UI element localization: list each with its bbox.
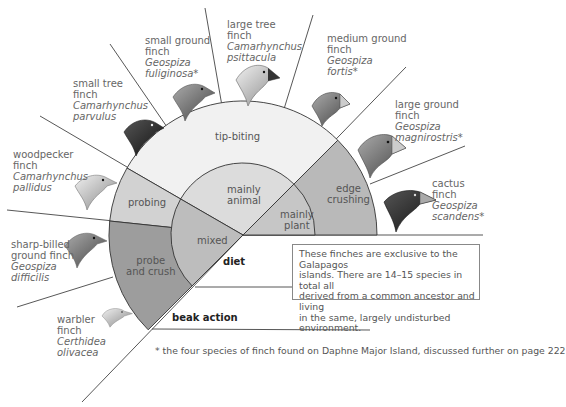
info-box-line1: These finches are exclusive to the Galap… (299, 249, 479, 270)
warbler-finch-head-icon (102, 309, 132, 328)
label-mainly-animal-line1: mainly (227, 184, 261, 195)
common-name-line2: finch (432, 189, 484, 200)
label-probing: probing (128, 197, 166, 208)
species-label-large-ground-finch: large ground finch Geospiza magnirostris… (395, 99, 463, 143)
cactus-finch-head-icon (384, 190, 436, 232)
species-label-sharp-billed-ground-finch: sharp-billed ground finch Geospiza diffi… (11, 239, 74, 283)
scientific-name-line2: pallidus (13, 182, 88, 193)
common-name-line2: finch (13, 160, 88, 171)
common-name-line2: finch (395, 110, 463, 121)
label-mainly-plant-line2: plant (280, 220, 314, 231)
scientific-name-line2: scandens* (432, 211, 484, 222)
scientific-name-line2: magnirostris* (395, 132, 463, 143)
label-mixed: mixed (197, 235, 228, 246)
footnote: * the four species of finch found on Dap… (155, 345, 566, 356)
beak-action-axis-label: beak action (172, 312, 238, 323)
scientific-name-line1: Camarhynchus (227, 41, 302, 52)
common-name-line2: finch (57, 325, 106, 336)
label-probe-and-crush: probe and crush (126, 255, 176, 277)
label-mainly-animal-line2: animal (227, 195, 261, 206)
common-name-line2: ground finch (11, 250, 74, 261)
common-name-line2: finch (327, 44, 407, 55)
common-name-line2: finch (227, 30, 302, 41)
scientific-name-line2: fuliginosa* (145, 68, 210, 79)
label-edge-crushing: edge crushing (327, 183, 370, 205)
common-name-line2: finch (73, 89, 148, 100)
medium-ground-finch-head-icon (312, 93, 350, 127)
common-name-line1: large ground (395, 99, 463, 110)
species-label-medium-ground-finch: medium ground finch Geospiza fortis* (327, 33, 407, 77)
common-name-line1: sharp-billed (11, 239, 74, 250)
large-tree-finch-head-icon (236, 65, 280, 106)
info-box-line2: islands. There are 14–15 species in tota… (299, 270, 479, 291)
scientific-name-line1: Certhidea (57, 336, 106, 347)
label-mainly-plant-line1: mainly (280, 209, 314, 220)
scientific-name-line1: Geospiza (432, 200, 484, 211)
common-name-line1: large tree (227, 19, 302, 30)
common-name-line1: cactus (432, 178, 484, 189)
label-mainly-plant: mainly plant (280, 209, 314, 231)
species-label-small-tree-finch: small tree finch Camarhynchus parvulus (73, 78, 148, 122)
label-probe-line2: and crush (126, 266, 176, 277)
info-box-line4: in the same, largely undisturbed environ… (299, 313, 479, 334)
scientific-name-line2: difficilis (11, 272, 74, 283)
scientific-name-line2: psittacula (227, 52, 302, 63)
label-edge-crushing-line1: edge (327, 183, 370, 194)
info-box-line3: derived from a common ancestor and livin… (299, 291, 479, 312)
species-label-cactus-finch: cactus finch Geospiza scandens* (432, 178, 484, 222)
species-label-large-tree-finch: large tree finch Camarhynchus psittacula (227, 19, 302, 63)
species-label-woodpecker-finch: woodpecker finch Camarhynchus pallidus (13, 149, 88, 193)
common-name-line1: medium ground (327, 33, 407, 44)
common-name-line1: woodpecker (13, 149, 88, 160)
label-edge-crushing-line2: crushing (327, 194, 370, 205)
scientific-name-line1: Geospiza (395, 121, 463, 132)
label-mainly-animal: mainly animal (227, 184, 261, 206)
common-name-line2: finch (145, 46, 210, 57)
scientific-name-line1: Camarhynchus (13, 171, 88, 182)
scientific-name-line2: olivacea (57, 347, 106, 358)
label-probe-line1: probe (126, 255, 176, 266)
scientific-name-line1: Geospiza (11, 261, 74, 272)
scientific-name-line1: Camarhynchus (73, 100, 148, 111)
scientific-name-line1: Geospiza (145, 57, 210, 68)
scientific-name-line2: parvulus (73, 111, 148, 122)
diet-axis-label: diet (223, 256, 245, 267)
scientific-name-line2: fortis* (327, 66, 407, 77)
scientific-name-line1: Geospiza (327, 55, 407, 66)
common-name-line1: small ground (145, 35, 210, 46)
info-box: These finches are exclusive to the Galap… (292, 244, 480, 300)
common-name-line1: warbler (57, 314, 106, 325)
species-label-small-ground-finch: small ground finch Geospiza fuliginosa* (145, 35, 210, 79)
species-label-warbler-finch: warbler finch Certhidea olivacea (57, 314, 106, 358)
common-name-line1: small tree (73, 78, 148, 89)
label-tip-biting: tip-biting (215, 131, 260, 142)
